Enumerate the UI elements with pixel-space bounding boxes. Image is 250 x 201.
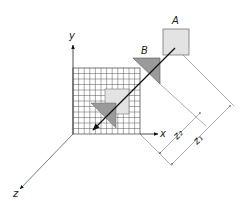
label-z2: z₂ — [170, 127, 185, 142]
z-axis — [20, 134, 73, 189]
label-y-axis: y — [68, 30, 76, 41]
label-z1: z₁ — [190, 132, 205, 147]
diagram-canvas: A B y x z z₂ z₁ — [0, 0, 250, 201]
label-x-axis: x — [159, 128, 166, 139]
label-a: A — [171, 15, 179, 26]
label-z-axis: z — [12, 188, 19, 199]
object-a-square — [163, 29, 189, 55]
label-b: B — [141, 45, 148, 56]
